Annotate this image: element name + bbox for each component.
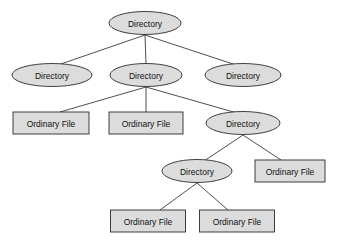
node-label: Ordinary File <box>124 217 173 227</box>
tree-edge-n0-n1 <box>58 35 145 65</box>
tree-edge-n6-n7 <box>204 135 243 161</box>
tree-node-directory-n1[interactable]: Directory <box>12 64 92 87</box>
tree-edge-n0-n2 <box>145 35 146 64</box>
node-label: Directory <box>35 71 70 81</box>
tree-edge-n7-n9 <box>160 183 197 210</box>
node-label: Ordinary File <box>27 119 76 129</box>
diagram-canvas: DirectoryDirectoryDirectoryDirectoryOrdi… <box>0 0 344 240</box>
tree-node-directory-n3[interactable]: Directory <box>205 64 281 87</box>
tree-node-ordinary-file-n10[interactable]: Ordinary File <box>200 210 275 232</box>
tree-node-directory-n0[interactable]: Directory <box>109 12 181 35</box>
tree-node-ordinary-file-n9[interactable]: Ordinary File <box>111 210 186 232</box>
tree-node-ordinary-file-n4[interactable]: Ordinary File <box>13 112 89 134</box>
tree-node-directory-n7[interactable]: Directory <box>162 160 232 183</box>
node-layer: DirectoryDirectoryDirectoryDirectoryOrdi… <box>12 12 325 233</box>
node-label: Directory <box>128 19 163 29</box>
node-label: Ordinary File <box>213 217 262 227</box>
tree-node-ordinary-file-n5[interactable]: Ordinary File <box>109 112 183 134</box>
tree-node-ordinary-file-n8[interactable]: Ordinary File <box>255 160 325 182</box>
tree-edge-n0-n3 <box>145 35 236 65</box>
node-label: Directory <box>180 167 215 177</box>
tree-edge-n2-n4 <box>60 87 146 112</box>
tree-edge-n6-n8 <box>243 135 281 160</box>
node-label: Directory <box>129 71 164 81</box>
node-label: Directory <box>226 119 261 129</box>
node-label: Ordinary File <box>122 119 171 129</box>
file-system-tree-diagram: DirectoryDirectoryDirectoryDirectoryOrdi… <box>0 0 344 240</box>
tree-edge-n7-n10 <box>197 183 228 210</box>
tree-node-directory-n2[interactable]: Directory <box>110 64 182 87</box>
node-label: Ordinary File <box>266 167 315 177</box>
node-label: Directory <box>226 71 261 81</box>
tree-edge-n2-n6 <box>146 87 237 113</box>
tree-node-directory-n6[interactable]: Directory <box>206 112 280 135</box>
